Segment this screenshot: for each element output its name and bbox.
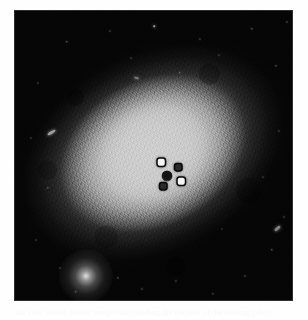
field-star [275,65,276,66]
field-star [30,137,31,138]
field-star [75,291,76,292]
foreground-star [59,249,113,301]
field-star [251,28,252,29]
field-star [244,275,245,276]
field-streak [133,76,138,79]
field-star [179,72,180,73]
field-star [35,239,36,240]
plate-dither-texture [14,10,293,301]
field-star [212,293,213,294]
field-star [117,277,118,278]
lensed-quasar-image-b [175,164,181,170]
lensed-quasar-image-d [160,183,166,189]
galaxy-mid-halo [32,43,274,264]
field-star [222,229,223,230]
field-star [37,82,38,83]
field-star [175,280,176,281]
field-streak [46,128,55,135]
field-star [262,176,263,177]
figure-caption: the four lensed quasar images surroundin… [16,308,292,318]
field-star [130,57,131,58]
field-star [153,25,155,27]
field-star [286,21,287,22]
lensed-quasar-image-a [158,159,165,166]
field-star [47,187,48,188]
field-star [271,249,272,250]
field-star [59,267,60,268]
quasar-knot [178,178,185,185]
field-streak [273,225,280,232]
lensed-quasar-image-c [178,178,185,185]
field-star [141,288,142,289]
page-canvas: the four lensed quasar images surroundin… [0,0,308,320]
galaxy-nucleus [162,171,173,182]
quasar-knot [160,183,166,189]
field-star [66,41,67,42]
galaxy-outer-halo [14,10,293,301]
field-star [278,130,279,131]
astronomical-plate [14,10,293,301]
field-star [283,216,284,217]
field-star [199,38,200,39]
field-star [125,103,126,104]
plate-grain-texture [14,10,293,301]
quasar-knot [175,164,181,170]
field-star [109,30,110,31]
galaxy-core [75,80,231,227]
field-star [218,54,219,55]
quasar-knot [158,159,165,166]
